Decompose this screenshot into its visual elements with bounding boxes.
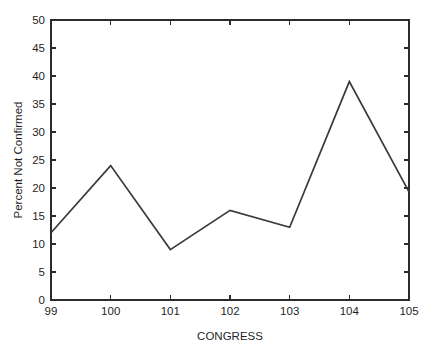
x-tick-label-104: 104 bbox=[340, 305, 360, 317]
x-tick-label-99: 99 bbox=[45, 305, 58, 317]
y-tick-label-25: 25 bbox=[32, 154, 45, 166]
x-tick-label-102: 102 bbox=[220, 305, 239, 317]
data-series-line bbox=[51, 82, 409, 250]
x-axis-ticks bbox=[51, 20, 409, 300]
x-tick-label-105: 105 bbox=[399, 305, 418, 317]
y-tick-label-35: 35 bbox=[32, 98, 45, 110]
y-tick-label-20: 20 bbox=[32, 182, 45, 194]
y-tick-label-50: 50 bbox=[32, 14, 45, 26]
chart-figure: 0 5 10 15 20 25 30 35 40 45 50 99 100 10… bbox=[0, 0, 433, 351]
y-tick-label-45: 45 bbox=[32, 42, 45, 54]
x-tick-label-103: 103 bbox=[280, 305, 299, 317]
y-tick-label-40: 40 bbox=[32, 70, 45, 82]
y-tick-label-15: 15 bbox=[32, 210, 45, 222]
x-tick-label-100: 100 bbox=[101, 305, 120, 317]
line-chart: 0 5 10 15 20 25 30 35 40 45 50 99 100 10… bbox=[0, 0, 433, 351]
y-axis-ticks bbox=[51, 20, 409, 300]
y-axis-title: Percent Not Confirmed bbox=[12, 102, 24, 219]
x-tick-label-101: 101 bbox=[161, 305, 180, 317]
x-axis-title: CONGRESS bbox=[197, 330, 263, 342]
plot-area-frame bbox=[51, 20, 409, 300]
y-tick-label-10: 10 bbox=[32, 238, 45, 250]
y-tick-label-5: 5 bbox=[39, 266, 45, 278]
y-tick-label-30: 30 bbox=[32, 126, 45, 138]
